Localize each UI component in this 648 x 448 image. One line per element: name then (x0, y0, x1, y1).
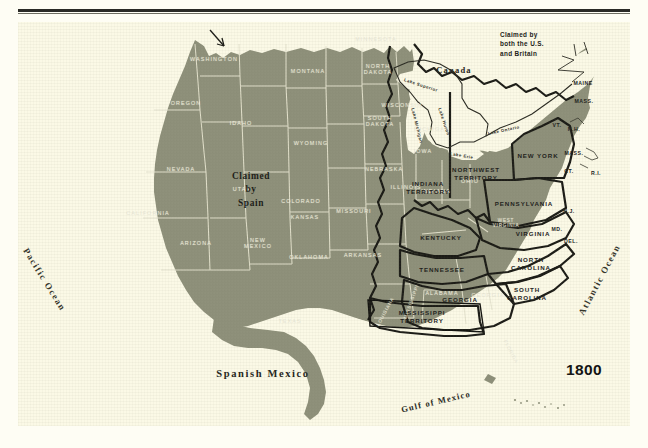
political-label-vermont: VT. (553, 123, 562, 128)
map-plate: WASHINGTON OREGON IDAHO MONTANA WYOMING … (18, 22, 630, 426)
header-rule (18, 9, 630, 12)
political-label-tennessee: TENNESSEE (419, 267, 465, 274)
political-label-indiana-territory: INDIANA TERRITORY (406, 180, 450, 196)
ghost-label-nevada: NEVADA (167, 167, 195, 173)
political-label-northwest-territory: NORTHWEST TERRITORY (452, 166, 500, 182)
claimed-by-both-annotation: Claimed by both the U.S. and Britain (500, 30, 544, 58)
political-label-indiana-territory-l1: INDIANA (412, 180, 444, 187)
map-graphic (18, 22, 630, 426)
map-page: WASHINGTON OREGON IDAHO MONTANA WYOMING … (0, 0, 648, 448)
ghost-label-west-virginia-l2: VIRGINIA (493, 223, 520, 228)
ghost-label-arkansas: ARKANSAS (344, 253, 382, 259)
political-label-new-hampshire: N.H. (568, 127, 580, 132)
political-label-connecticut: CT. (564, 169, 573, 174)
ghost-label-wisconsin: WISCONSIN (381, 103, 422, 109)
ghost-label-nebraska: NEBRASKA (365, 167, 403, 173)
ghost-label-new-mexico: NEW MEXICO (244, 238, 272, 249)
claimed-by-both-l2: both the U.S. (500, 40, 544, 47)
ghost-label-kansas: KANSAS (291, 215, 319, 221)
political-label-delaware: DEL. (564, 239, 578, 244)
claimed-by-both-l1: Claimed by (500, 31, 538, 38)
political-label-north-carolina-l1: NORTH (518, 256, 545, 263)
ghost-label-wyoming: WYOMING (294, 141, 329, 147)
political-label-kentucky: KENTUCKY (420, 235, 462, 242)
ghost-label-iowa: IOWA (414, 149, 433, 155)
political-label-rhode-island: R.I. (591, 171, 601, 176)
ghost-label-north-dakota: NORTH DAKOTA (364, 64, 392, 75)
political-label-pennsylvania: PENNSYLVANIA (495, 201, 553, 208)
political-label-maryland: MD. (551, 227, 562, 232)
political-label-south-carolina: SOUTH CAROLINA (507, 286, 547, 302)
ghost-label-colorado: COLORADO (281, 199, 321, 205)
claimed-by-spain-l3: Spain (238, 198, 264, 208)
political-label-virginia: VIRGINIA (516, 231, 551, 238)
ghost-label-missouri: MISSOURI (336, 209, 371, 215)
political-label-new-york: NEW YORK (517, 153, 558, 160)
header-rule-thin (18, 13, 630, 14)
ghost-label-oklahoma: OKLAHOMA (289, 255, 328, 261)
political-label-indiana-territory-l2: TERRITORY (406, 188, 450, 195)
political-label-mississippi-territory-l1: MISSISSIPPI (399, 309, 446, 316)
political-label-georgia: GEORGIA (442, 297, 478, 304)
political-label-north-carolina: NORTH CAROLINA (511, 256, 551, 272)
political-label-massachusetts: MASS. (565, 151, 584, 156)
political-label-northwest-territory-l2: TERRITORY (454, 174, 498, 181)
ghost-label-idaho: IDAHO (230, 121, 253, 127)
ghost-label-west-virginia: WEST VIRGINIA (493, 219, 520, 229)
claimed-by-spain-l1: Claimed (232, 171, 270, 181)
geo-label-spanish-mexico: Spanish Mexico (216, 368, 309, 379)
ghost-label-oregon: OREGON (171, 101, 202, 107)
ghost-label-minnesota: MINNESOTA (355, 37, 397, 43)
political-label-mass-maine-district: MASS. (575, 99, 594, 104)
political-label-south-carolina-l2: CAROLINA (507, 294, 547, 301)
claimed-by-spain-l2: by (245, 184, 256, 194)
geo-label-canada: Canada (436, 66, 472, 75)
political-label-mississippi-territory-l2: TERRITORY (400, 317, 444, 324)
ghost-label-montana: MONTANA (291, 69, 325, 75)
political-label-maine: MAINE (573, 81, 592, 86)
political-label-north-carolina-l2: CAROLINA (511, 264, 551, 271)
ghost-label-north-dakota-l2: DAKOTA (364, 69, 392, 75)
political-label-northwest-territory-l1: NORTHWEST (452, 166, 500, 173)
political-label-mississippi-territory: MISSISSIPPI TERRITORY (399, 309, 446, 325)
ghost-label-new-mexico-l2: MEXICO (244, 243, 272, 249)
ghost-label-south-dakota-l2: DAKOTA (366, 121, 394, 127)
claimed-by-spain-annotation: Claimed by Spain (232, 170, 270, 210)
political-label-new-jersey: N.J. (563, 209, 575, 214)
claimed-by-both-l3: and Britain (500, 50, 537, 57)
year-label: 1800 (566, 362, 602, 378)
ghost-label-south-dakota: SOUTH DAKOTA (366, 116, 394, 127)
ghost-label-washington: WASHINGTON (190, 57, 238, 63)
ghost-label-arizona: ARIZONA (180, 241, 212, 247)
ghost-label-texas: TEXAS (278, 319, 301, 325)
political-label-south-carolina-l1: SOUTH (514, 286, 540, 293)
ghost-label-california: CALIFORNIA (126, 211, 169, 217)
